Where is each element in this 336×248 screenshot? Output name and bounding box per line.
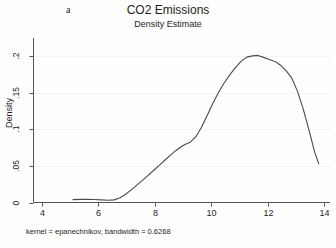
y-tick-label: .15 bbox=[11, 80, 21, 106]
y-tick-label: .05 bbox=[11, 153, 21, 179]
density-curve bbox=[73, 55, 319, 200]
y-tick-label: .2 bbox=[11, 43, 21, 69]
x-axis-ticks bbox=[43, 203, 325, 207]
gridlines bbox=[34, 57, 331, 167]
x-tick-label: 14 bbox=[313, 208, 336, 218]
x-tick-label: 10 bbox=[200, 208, 224, 218]
density-plot-figure: a CO2 Emissions Density Estimate Density… bbox=[0, 0, 336, 248]
x-tick-label: 6 bbox=[87, 208, 111, 218]
x-tick-label: 12 bbox=[257, 208, 281, 218]
y-axis-ticks bbox=[30, 57, 34, 204]
kernel-footnote: kernel = epanechnikov, bandwidth = 0.626… bbox=[26, 227, 171, 236]
x-tick-label: 8 bbox=[144, 208, 168, 218]
y-tick-label: 0 bbox=[11, 190, 21, 216]
y-tick-label: .1 bbox=[11, 116, 21, 142]
x-tick-label: 4 bbox=[31, 208, 55, 218]
